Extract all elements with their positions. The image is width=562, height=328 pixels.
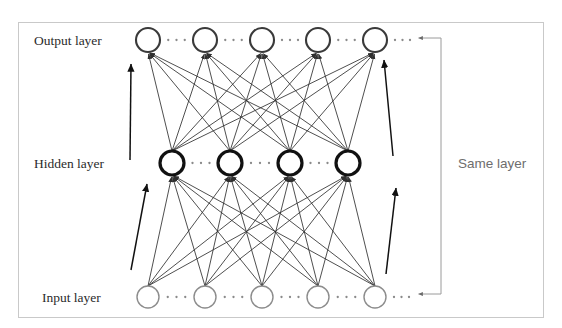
connection-hidden-to-output xyxy=(172,53,261,151)
input-node xyxy=(364,286,386,308)
ellipsis-dot xyxy=(268,162,270,164)
ellipsis-dot xyxy=(184,39,186,41)
ellipsis-dot xyxy=(345,39,347,41)
input-node xyxy=(251,286,273,308)
bold-direction-arrow-left-hidden-to-output xyxy=(130,64,131,160)
output-node xyxy=(136,28,160,52)
input-node xyxy=(307,286,329,308)
ellipsis-dot xyxy=(259,162,261,164)
ellipsis-dot xyxy=(309,162,311,164)
ellipsis-dot xyxy=(393,296,395,298)
neural-network-figure: Output layer Hidden layer Input layer Sa… xyxy=(0,0,562,328)
output-layer-label: Output layer xyxy=(34,33,102,48)
output-node xyxy=(250,28,274,52)
ellipsis-dot xyxy=(167,296,169,298)
ellipsis-dot xyxy=(337,39,339,41)
ellipsis-dot xyxy=(401,39,403,41)
ellipsis-dot xyxy=(337,296,339,298)
ellipsis-dot xyxy=(289,296,291,298)
ellipsis-dot xyxy=(184,296,186,298)
connection-input-to-hidden xyxy=(348,177,375,286)
ellipsis-dot xyxy=(280,296,282,298)
ellipsis-dot xyxy=(394,39,396,41)
connection-hidden-to-output xyxy=(150,53,348,151)
hidden-node xyxy=(218,151,242,175)
connection-hidden-to-output xyxy=(230,54,261,151)
ellipsis-dot xyxy=(167,39,169,41)
connection-input-to-hidden xyxy=(148,176,288,286)
ellipsis-dot xyxy=(224,39,226,41)
ellipsis-dot xyxy=(200,162,202,164)
input-node xyxy=(137,286,159,308)
connection-hidden-to-output xyxy=(148,54,172,151)
ellipsis-dot xyxy=(175,296,177,298)
ellipsis-dot xyxy=(224,296,226,298)
hidden-layer-label: Hidden layer xyxy=(34,156,105,171)
output-node xyxy=(363,28,387,52)
ellipsis-dot xyxy=(241,39,243,41)
ellipsis-dot xyxy=(232,39,234,41)
input-layer-label: Input layer xyxy=(42,290,101,305)
connection-hidden-to-output xyxy=(172,53,373,151)
same-layer-bracket-group xyxy=(419,38,442,294)
bold-direction-arrow-left-input-to-hidden xyxy=(131,184,147,270)
ellipsis-dot xyxy=(326,162,328,164)
ellipsis-dot xyxy=(232,296,234,298)
ellipsis-dot xyxy=(354,296,356,298)
ellipsis-dot xyxy=(354,39,356,41)
ellipsis-dot xyxy=(175,39,177,41)
connection-hidden-to-output xyxy=(172,53,316,151)
ellipsis-dot xyxy=(408,296,410,298)
input-node xyxy=(194,286,216,308)
ellipsis-dot xyxy=(208,162,210,164)
ellipsis-dot xyxy=(318,162,320,164)
ellipsis-dot xyxy=(297,39,299,41)
diagram-canvas: Output layer Hidden layer Input layer Sa… xyxy=(0,0,562,328)
ellipsis-dot xyxy=(409,39,411,41)
ellipsis-dot xyxy=(297,296,299,298)
output-node xyxy=(193,28,217,52)
ellipsis-dot xyxy=(400,296,402,298)
connection-hidden-to-output xyxy=(150,53,290,151)
ellipsis-dot xyxy=(191,162,193,164)
hidden-node xyxy=(336,151,360,175)
ellipsis-dot xyxy=(345,296,347,298)
connection-hidden-to-output xyxy=(319,54,348,151)
same-layer-label: Same layer xyxy=(458,156,527,171)
bold-direction-arrow-right-hidden-to-output xyxy=(384,60,393,156)
hidden-node xyxy=(160,151,184,175)
ellipsis-dot xyxy=(250,162,252,164)
ellipsis-dot xyxy=(289,39,291,41)
output-node xyxy=(306,28,330,52)
ellipsis-dot xyxy=(241,296,243,298)
connection-hidden-to-output xyxy=(172,54,204,151)
ellipsis-dot xyxy=(281,39,283,41)
hidden-node xyxy=(278,151,302,175)
connection-input-to-hidden xyxy=(174,176,318,286)
bold-direction-arrow-right-input-to-hidden xyxy=(386,188,396,274)
